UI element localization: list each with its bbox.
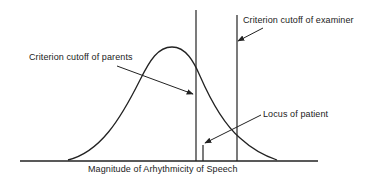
parents-cutoff-label: Criterion cutoff of parents <box>29 52 133 62</box>
distribution-curve <box>68 47 277 160</box>
examiner-cutoff-label: Criterion cutoff of examiner <box>243 15 354 25</box>
parents-cutoff-arrow <box>117 66 193 94</box>
x-axis-label: Magnitude of Arhythmicity of Speech <box>88 164 238 174</box>
diagram-canvas <box>0 0 378 184</box>
patient-locus-arrow <box>205 115 261 143</box>
patient-locus-label: Locus of patient <box>263 109 328 119</box>
examiner-cutoff-arrow <box>238 28 263 41</box>
